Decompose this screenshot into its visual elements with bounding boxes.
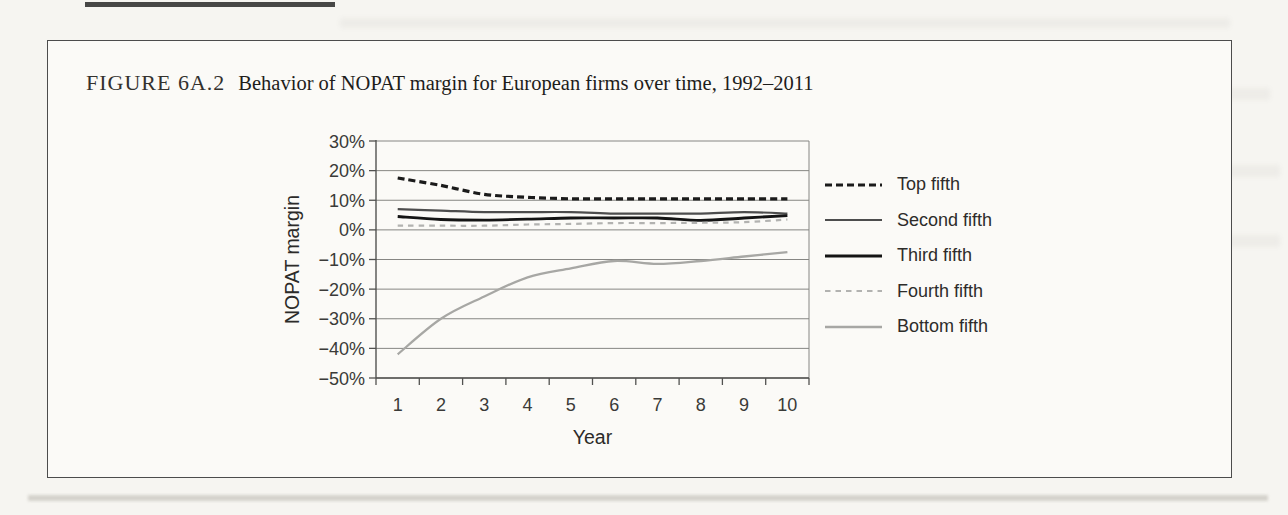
x-tick-label: 10 <box>777 395 797 415</box>
legend-swatch-fourth-fifth <box>825 287 882 295</box>
series-line-top-fifth <box>398 178 788 199</box>
x-tick-label: 4 <box>523 395 533 415</box>
x-tick-label: 6 <box>609 395 619 415</box>
x-tick-label: 3 <box>479 395 489 415</box>
scan-bleed-text-top <box>340 18 1230 28</box>
legend-item-bottom-fifth: Bottom fifth <box>825 313 992 341</box>
y-tick-label: −30% <box>318 309 365 329</box>
y-tick-label: 0% <box>339 220 365 240</box>
series-line-second-fifth <box>398 209 788 214</box>
x-tick-label: 9 <box>739 395 749 415</box>
legend-label-third-fifth: Third fifth <box>897 245 972 266</box>
legend-swatch-bottom-fifth <box>825 323 882 331</box>
legend-item-fourth-fifth: Fourth fifth <box>825 278 992 306</box>
legend-label-top-fifth: Top fifth <box>897 174 960 195</box>
y-axis-title: NOPAT margin <box>281 195 303 324</box>
scan-artifact-bottom-band <box>28 495 1268 501</box>
y-tick-label: −20% <box>318 280 365 300</box>
figure-number-label: FIGURE 6A.2 <box>86 70 225 95</box>
legend-swatch-third-fifth <box>825 252 882 260</box>
chart-legend: Top fifthSecond fifthThird fifthFourth f… <box>825 171 992 341</box>
legend-label-second-fifth: Second fifth <box>897 210 992 231</box>
x-tick-label: 8 <box>696 395 706 415</box>
legend-swatch-second-fifth <box>825 216 882 224</box>
y-tick-label: −50% <box>318 369 365 389</box>
y-tick-label: 30% <box>329 132 365 152</box>
x-axis-title: Year <box>573 426 613 448</box>
scan-artifact-top-streak <box>85 2 335 7</box>
series-line-bottom-fifth <box>398 252 788 354</box>
nopat-margin-line-chart: 30%20%10%0%−10%−20%−30%−40%−50%123456789… <box>251 119 831 469</box>
legend-item-top-fifth: Top fifth <box>825 171 992 199</box>
x-tick-label: 1 <box>393 395 403 415</box>
x-tick-label: 7 <box>652 395 662 415</box>
y-tick-label: −40% <box>318 339 365 359</box>
legend-label-bottom-fifth: Bottom fifth <box>897 316 988 337</box>
legend-swatch-top-fifth <box>825 181 882 189</box>
legend-item-second-fifth: Second fifth <box>825 207 992 235</box>
figure-box: FIGURE 6A.2Behavior of NOPAT margin for … <box>47 40 1232 478</box>
figure-title: FIGURE 6A.2Behavior of NOPAT margin for … <box>86 70 813 96</box>
x-tick-label: 5 <box>566 395 576 415</box>
series-line-third-fifth <box>398 216 788 221</box>
y-tick-label: 20% <box>329 161 365 181</box>
y-tick-label: −10% <box>318 250 365 270</box>
legend-label-fourth-fifth: Fourth fifth <box>897 281 983 302</box>
x-tick-label: 2 <box>436 395 446 415</box>
y-tick-label: 10% <box>329 191 365 211</box>
scanned-page: { "figure": { "label": "FIGURE 6A.2", "c… <box>0 0 1288 515</box>
figure-caption: Behavior of NOPAT margin for European fi… <box>238 72 813 94</box>
legend-item-third-fifth: Third fifth <box>825 242 992 270</box>
